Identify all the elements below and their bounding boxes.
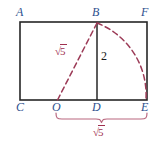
vertex-label-o: O <box>52 101 61 113</box>
figure-canvas <box>0 0 157 148</box>
radicand-diagonal: 5 <box>60 44 67 57</box>
measure-label-diagonal: √5 <box>55 46 67 57</box>
measure-label-height: 2 <box>101 50 107 62</box>
measure-label-base: √5 <box>93 127 105 138</box>
vertex-label-a: A <box>16 6 23 18</box>
radicand-base: 5 <box>98 125 105 138</box>
vertex-label-b: B <box>92 6 99 18</box>
vertex-label-e: E <box>141 101 148 113</box>
rectangle-outline <box>20 22 147 100</box>
vertex-label-d: D <box>92 101 101 113</box>
measurement-brace <box>56 113 147 123</box>
vertex-label-f: F <box>141 6 148 18</box>
vertex-label-c: C <box>16 101 24 113</box>
dashed-segment-bo <box>57 23 97 101</box>
geometry-figure: A B F C O D E √5 2 √5 <box>0 0 157 148</box>
